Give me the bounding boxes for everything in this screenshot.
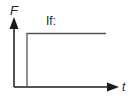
y-axis-arrowhead-icon [10,17,19,29]
step-function-line [27,34,106,88]
y-axis-label: F [10,3,19,18]
step-annotation: If: [46,14,56,28]
x-axis-arrowhead-icon [107,83,119,92]
x-axis-label: t [122,80,126,94]
step-function-diagram: F t If: [0,0,137,105]
